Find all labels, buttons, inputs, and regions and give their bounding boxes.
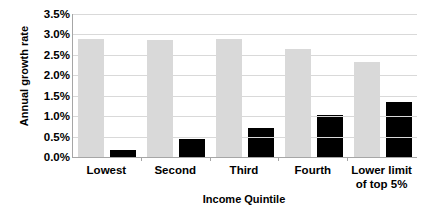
bar-series-dark-2 <box>248 128 274 157</box>
y-axis-tick-label: 1.0% <box>22 110 70 122</box>
y-axis-tick-label: 1.5% <box>22 90 70 102</box>
bar-series-dark-1 <box>179 139 205 157</box>
y-axis-tick-label: 0.5% <box>22 131 70 143</box>
plot-bars-container <box>73 14 417 157</box>
bar-series-dark-0 <box>110 150 136 157</box>
y-axis-tick-label: 2.0% <box>22 69 70 81</box>
bar-series-light-0 <box>78 39 104 157</box>
bar-chart: Annual growth rate 0.0%0.5%1.0%1.5%2.0%2… <box>0 0 421 214</box>
x-axis-tick <box>347 157 348 161</box>
x-axis-tick <box>210 157 211 161</box>
bar-group <box>142 14 211 157</box>
gridline <box>73 96 417 97</box>
bar-group <box>73 14 142 157</box>
gridline <box>73 75 417 76</box>
gridline <box>73 14 417 15</box>
y-axis-tick-label: 0.0% <box>22 151 70 163</box>
gridline <box>73 137 417 138</box>
gridline <box>73 34 417 35</box>
bar-group <box>211 14 280 157</box>
x-axis-tick <box>278 157 279 161</box>
plot-area <box>72 14 417 158</box>
x-axis-tick <box>141 157 142 161</box>
bar-series-light-1 <box>147 40 173 157</box>
y-axis-tick-label: 2.5% <box>22 49 70 61</box>
y-axis-tick-labels: 0.0%0.5%1.0%1.5%2.0%2.5%3.0%3.5% <box>22 8 70 160</box>
x-axis-title: Income Quintile <box>72 192 416 206</box>
y-axis-tick-label: 3.0% <box>22 28 70 40</box>
gridline <box>73 116 417 117</box>
bar-series-dark-4 <box>386 102 412 157</box>
bar-group <box>348 14 417 157</box>
bar-series-light-3 <box>285 49 311 157</box>
gridline <box>73 55 417 56</box>
y-axis-tick-label: 3.5% <box>22 8 70 20</box>
bar-series-light-2 <box>216 39 242 157</box>
bar-series-light-4 <box>354 62 380 157</box>
bar-group <box>279 14 348 157</box>
